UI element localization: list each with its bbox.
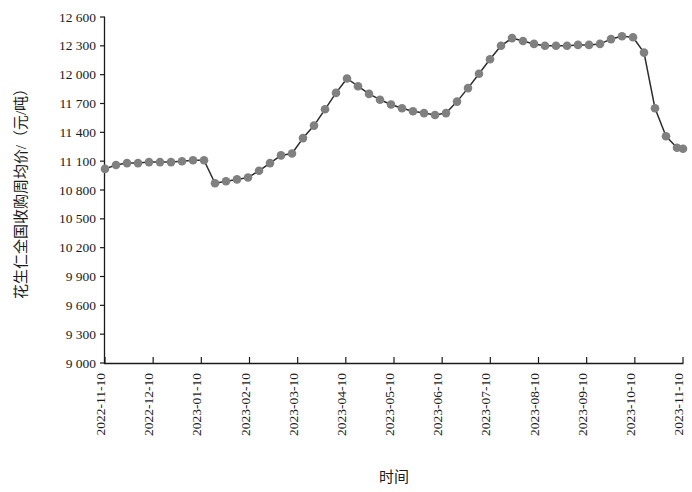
data-point-marker bbox=[497, 42, 506, 51]
y-tick-label: 12 600 bbox=[59, 10, 96, 25]
y-axis-tick-labels: 12 60012 30012 00011 70011 40011 10010 8… bbox=[59, 10, 96, 371]
data-point-marker bbox=[475, 69, 484, 78]
data-point-marker bbox=[299, 134, 308, 143]
x-tick-label: 2023-01-10 bbox=[189, 373, 204, 436]
y-tick-label: 9 600 bbox=[66, 298, 97, 313]
data-point-marker bbox=[486, 55, 495, 64]
data-point-marker bbox=[134, 159, 143, 168]
data-point-marker bbox=[640, 48, 649, 57]
x-axis-ticks bbox=[105, 357, 683, 363]
data-point-marker bbox=[332, 89, 341, 98]
data-point-marker bbox=[596, 40, 605, 49]
data-point-marker bbox=[244, 173, 253, 182]
data-point-marker bbox=[679, 144, 688, 153]
data-point-marker bbox=[211, 179, 220, 188]
x-tick-label: 2022-11-10 bbox=[93, 373, 108, 436]
data-point-marker bbox=[618, 32, 627, 41]
x-tick-label: 2023-05-10 bbox=[382, 373, 397, 436]
x-tick-label: 2023-08-10 bbox=[527, 373, 542, 436]
data-point-marker bbox=[464, 84, 473, 93]
y-tick-label: 11 700 bbox=[59, 96, 96, 111]
data-point-marker bbox=[277, 151, 286, 160]
y-tick-label: 9 900 bbox=[66, 269, 97, 284]
data-point-marker bbox=[167, 158, 176, 167]
data-point-marker bbox=[431, 111, 440, 120]
data-point-marker bbox=[145, 158, 154, 167]
x-tick-label: 2022-12-10 bbox=[141, 373, 156, 436]
data-point-marker bbox=[552, 42, 561, 51]
data-point-marker bbox=[541, 42, 550, 51]
x-tick-label: 2023-03-10 bbox=[286, 373, 301, 436]
x-tick-label: 2023-11-10 bbox=[671, 373, 686, 436]
data-point-marker bbox=[365, 90, 374, 99]
y-axis-title: 花生仁全国收购周均价/（元/吨） bbox=[12, 81, 29, 299]
x-tick-label: 2023-04-10 bbox=[334, 373, 349, 436]
line-chart: 12 60012 30012 00011 70011 40011 10010 8… bbox=[0, 0, 692, 492]
data-point-marker bbox=[156, 158, 165, 167]
data-point-marker bbox=[310, 121, 319, 130]
x-axis-title: 时间 bbox=[379, 469, 409, 485]
x-tick-label: 2023-10-10 bbox=[623, 373, 638, 436]
data-point-marker bbox=[563, 42, 572, 51]
data-point-marker bbox=[189, 156, 198, 165]
data-point-marker bbox=[200, 156, 209, 165]
data-point-marker bbox=[651, 104, 660, 113]
data-point-marker bbox=[629, 33, 638, 42]
data-point-marker bbox=[508, 34, 517, 43]
x-tick-label: 2023-06-10 bbox=[430, 373, 445, 436]
data-point-marker bbox=[607, 35, 616, 44]
data-point-marker bbox=[376, 95, 385, 104]
y-tick-label: 9 300 bbox=[66, 327, 97, 342]
chart-figure: 12 60012 30012 00011 70011 40011 10010 8… bbox=[0, 0, 692, 492]
y-tick-label: 10 500 bbox=[59, 211, 96, 226]
data-point-marker bbox=[442, 109, 451, 118]
data-point-marker bbox=[574, 41, 583, 50]
x-tick-label: 2023-02-10 bbox=[238, 373, 253, 436]
data-point-marker bbox=[112, 161, 121, 170]
price-markers bbox=[101, 32, 688, 188]
data-point-marker bbox=[530, 40, 539, 49]
data-point-marker bbox=[343, 74, 352, 83]
y-tick-label: 10 800 bbox=[59, 183, 96, 198]
x-tick-label: 2023-09-10 bbox=[575, 373, 590, 436]
y-tick-label: 12 300 bbox=[59, 38, 96, 53]
data-point-marker bbox=[222, 177, 231, 186]
data-point-marker bbox=[123, 159, 132, 168]
y-tick-label: 12 000 bbox=[59, 67, 96, 82]
data-point-marker bbox=[233, 175, 242, 184]
data-point-marker bbox=[662, 132, 671, 141]
x-axis-tick-labels: 2022-11-102022-12-102023-01-102023-02-10… bbox=[93, 373, 686, 436]
data-point-marker bbox=[266, 159, 275, 168]
data-point-marker bbox=[101, 165, 110, 174]
data-point-marker bbox=[420, 109, 429, 118]
data-point-marker bbox=[585, 41, 594, 50]
data-point-marker bbox=[288, 149, 297, 158]
y-tick-label: 11 100 bbox=[59, 154, 96, 169]
x-tick-label: 2023-07-10 bbox=[478, 373, 493, 436]
data-point-marker bbox=[519, 37, 528, 46]
y-tick-label: 10 200 bbox=[59, 240, 96, 255]
data-point-marker bbox=[453, 97, 462, 106]
data-point-marker bbox=[398, 104, 407, 113]
y-tick-label: 9 000 bbox=[66, 356, 97, 371]
data-point-marker bbox=[255, 167, 264, 176]
y-tick-label: 11 400 bbox=[59, 125, 96, 140]
data-point-marker bbox=[409, 107, 418, 116]
data-point-marker bbox=[178, 157, 187, 166]
data-point-marker bbox=[321, 105, 330, 114]
data-point-marker bbox=[387, 100, 396, 109]
data-point-marker bbox=[354, 82, 363, 91]
